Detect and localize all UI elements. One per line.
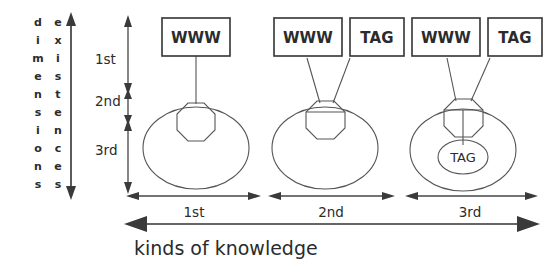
vaxis-tick-3rd: 3rd [95,142,117,158]
col3-box-tag-label: TAG [498,29,532,47]
column-1-group: WWW [143,18,249,189]
col3-connector-tag [471,58,490,101]
haxis-seg3-arrowhead-left [405,192,418,200]
haxis-seg1-arrowhead-right [248,192,261,200]
vletter-s2: s [35,178,42,191]
haxis-seg3-arrowhead-right [525,192,538,200]
col3-box-www-label: WWW [421,29,471,47]
knowledge-dimensions-diagram: d i m e n s i o n s e x i s t e n c e s [0,0,553,263]
seg1-arrowhead-up [124,15,132,27]
haxis-main-arrowhead-left [124,216,147,232]
haxis-segment-2nd: 2nd [268,192,395,220]
vletter-n-ex: n [54,124,62,137]
diagram-canvas: d i m e n s i o n s e x i s t e n c e s [0,0,553,263]
vletter-e: e [34,70,41,83]
vletter-o: o [34,142,42,155]
seg2-arrowhead-up [124,89,132,99]
haxis-seg2-arrowhead-right [382,192,395,200]
col2-box-www-label: WWW [283,29,333,47]
arrowhead-up [66,12,76,26]
haxis-segment-3rd: 3rd [405,192,538,220]
col2-connector-tag [333,58,350,103]
vertical-measure-segment-3rd [124,119,132,194]
vletter-n2: n [34,160,42,173]
col2-outer-ellipse [272,107,378,189]
vletter-m: m [32,52,43,65]
col3-connector-www [447,58,456,101]
haxis-seg1-label: 1st [184,204,205,220]
col1-octagon-node [177,103,215,141]
vletter-s-ex: s [55,70,62,83]
vletter-x: x [54,34,61,47]
vaxis-tick-2nd: 2nd [95,93,121,109]
vletter-i2: i [36,124,40,137]
haxis-seg3-label: 3rd [459,204,481,220]
vletter-s2-ex: s [55,178,62,191]
haxis-main-arrowhead-right [517,216,540,232]
vletter-e2-ex: e [54,106,61,119]
haxis-segment-1st: 1st [126,192,261,220]
vletter-s: s [35,106,42,119]
vletter-i: i [36,34,40,47]
vertical-axis-label-dimensions: d i m e n s i o n s [32,16,43,191]
vertical-axis-label-existences: e x i s t e n c e s [54,16,62,191]
figure-caption: kinds of knowledge [134,237,318,259]
vletter-n: n [34,88,42,101]
col1-outer-ellipse [143,107,249,189]
col2-box-tag-label: TAG [360,29,394,47]
haxis-seg2-arrowhead-left [268,192,281,200]
vaxis-tick-1st: 1st [95,51,116,67]
seg3-arrowhead-down [124,182,132,194]
vletter-e-ex: e [54,16,61,29]
seg3-arrowhead-up [124,119,132,131]
column-3-group: TAG WWW TAG [410,18,542,191]
column-2-group: WWW TAG [272,18,404,189]
vletter-t-ex: t [55,88,60,101]
col2-connector-www [307,58,320,103]
col3-inner-tag-label: TAG [449,150,476,165]
vletter-i-ex: i [56,52,60,65]
haxis-seg2-label: 2nd [318,204,344,220]
col1-box-www-label: WWW [171,29,221,47]
vletter-c-ex: c [55,142,62,155]
vertical-main-axis-arrow [66,12,76,200]
vletter-e3-ex: e [54,160,61,173]
arrowhead-down [66,186,76,200]
vertical-measure-segment-1st [124,15,132,95]
vletter-d: d [34,16,42,29]
